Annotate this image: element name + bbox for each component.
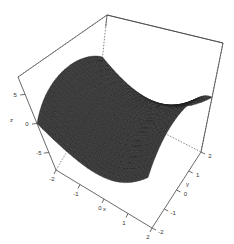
svg-text:0: 0 xyxy=(184,191,188,197)
z-axis-label: z xyxy=(10,117,13,123)
surface-plot: z -505 x -2-1012 y -2-1012 xyxy=(0,0,234,244)
svg-text:-1: -1 xyxy=(73,191,79,197)
svg-text:-2: -2 xyxy=(158,229,164,235)
svg-text:1: 1 xyxy=(196,172,200,178)
plot-canvas: z -505 x -2-1012 y -2-1012 xyxy=(0,0,234,244)
svg-text:-1: -1 xyxy=(171,210,177,216)
svg-text:0: 0 xyxy=(98,205,102,211)
svg-text:5: 5 xyxy=(13,92,17,98)
y-axis-label: y xyxy=(186,181,189,187)
saddle-surface xyxy=(37,56,212,183)
svg-text:1: 1 xyxy=(122,220,126,226)
x-axis-label: x xyxy=(103,206,106,212)
svg-text:2: 2 xyxy=(208,153,212,159)
svg-text:-5: -5 xyxy=(36,150,42,156)
svg-text:-2: -2 xyxy=(49,176,55,182)
y-axis: y -2-1012 xyxy=(152,152,212,235)
svg-text:2: 2 xyxy=(146,234,150,240)
svg-text:0: 0 xyxy=(25,121,29,127)
